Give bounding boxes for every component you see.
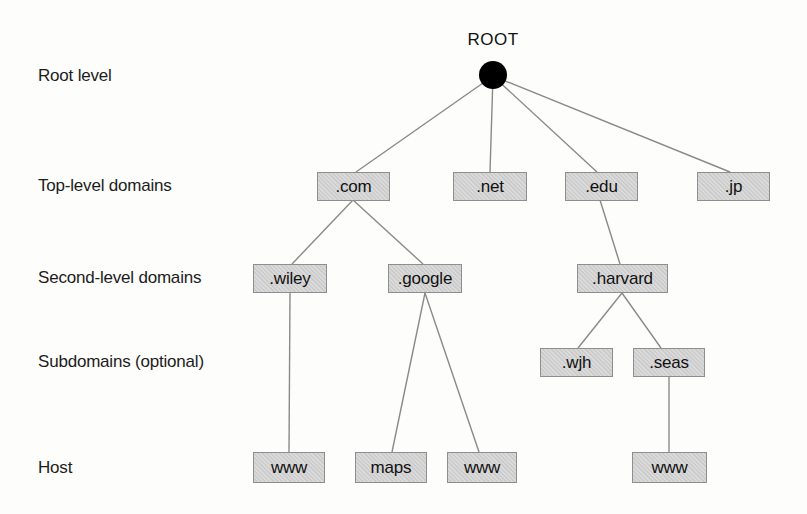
edge-google-www: [425, 293, 479, 452]
node-com: .com: [317, 172, 390, 201]
node-www-wiley: www: [253, 452, 325, 483]
edge-root-net: [490, 76, 493, 172]
node-www-seas: www: [632, 452, 707, 483]
edge-com-google: [353, 200, 423, 264]
row-label-root-level: Root level: [38, 66, 112, 86]
node-jp: .jp: [697, 172, 770, 201]
dns-hierarchy-diagram: Root level Top-level domains Second-leve…: [0, 0, 807, 514]
node-google: .google: [388, 264, 462, 293]
edge-harvard-seas: [622, 293, 661, 348]
node-www-google: www: [447, 452, 517, 483]
node-edu: .edu: [565, 172, 638, 201]
node-wiley: .wiley: [253, 264, 327, 293]
edge-google-maps: [392, 293, 425, 452]
edge-root-com: [356, 76, 493, 172]
edge-com-wiley: [292, 200, 353, 264]
edge-root-edu: [493, 76, 597, 172]
edge-wiley-www: [289, 293, 290, 452]
root-node-dot: [479, 61, 507, 89]
tree-edges: [0, 0, 807, 514]
row-label-second-level-domains: Second-level domains: [38, 268, 201, 288]
node-wjh: .wjh: [540, 348, 613, 377]
node-net: .net: [453, 172, 527, 201]
row-label-subdomains-optional: Subdomains (optional): [38, 352, 204, 372]
node-harvard: .harvard: [577, 264, 668, 293]
edge-harvard-wjh: [578, 293, 622, 348]
edge-root-jp: [493, 76, 730, 172]
row-label-host: Host: [38, 458, 72, 478]
node-maps: maps: [355, 452, 427, 483]
row-label-top-level-domains: Top-level domains: [38, 176, 172, 196]
node-seas: .seas: [633, 348, 705, 377]
root-node-label: ROOT: [458, 30, 528, 50]
edge-edu-harvard: [600, 200, 620, 264]
